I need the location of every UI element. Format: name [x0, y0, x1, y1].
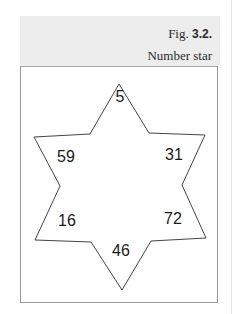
- star-number-top: 5: [116, 88, 125, 106]
- star-number-upper-right: 31: [165, 146, 183, 164]
- star-number-lower-right: 72: [164, 210, 182, 228]
- star-number-upper-left: 59: [57, 148, 75, 166]
- star-number-lower-left: 16: [58, 212, 76, 230]
- number-star-outline: [0, 0, 234, 314]
- star-number-bottom: 46: [112, 242, 130, 260]
